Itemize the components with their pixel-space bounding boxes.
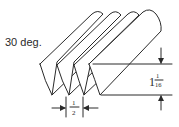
svg-text:2: 2 <box>72 109 76 117</box>
depth-dimension-label: 1 1 16 <box>149 72 163 89</box>
svg-text:1: 1 <box>72 99 76 107</box>
angle-label: 30 deg. <box>5 36 42 48</box>
spacing-dimension-label: 1 2 <box>70 99 79 117</box>
blade-diagram: 30 deg. 1 1 16 1 2 <box>0 0 179 127</box>
svg-text:1: 1 <box>156 72 159 79</box>
svg-text:16: 16 <box>155 81 162 88</box>
